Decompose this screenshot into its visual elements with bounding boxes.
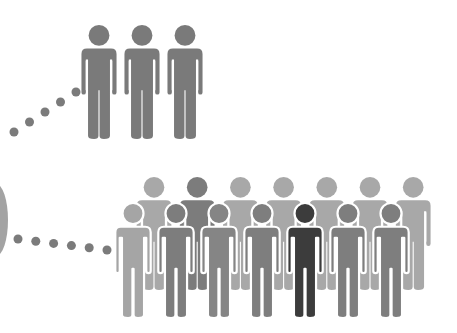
person-head <box>360 177 381 198</box>
people-illustration <box>0 0 457 333</box>
connector-dot <box>103 246 112 255</box>
person-head <box>144 177 165 198</box>
connector-dot <box>25 118 34 127</box>
person-head <box>251 203 272 224</box>
connector-dot <box>31 237 40 246</box>
person-head <box>337 203 358 224</box>
upper-dots-connector <box>10 88 81 137</box>
person-head <box>230 177 251 198</box>
person-body <box>158 227 193 318</box>
lower-dots-connector <box>14 235 112 255</box>
person-head <box>132 25 153 46</box>
person-body <box>115 227 150 318</box>
person-head <box>294 203 315 224</box>
person-head <box>175 25 196 46</box>
person-head <box>316 177 337 198</box>
connector-dot <box>67 241 76 250</box>
person-head <box>380 203 401 224</box>
person-body <box>167 49 202 139</box>
connector-dot <box>56 98 65 107</box>
top-group <box>81 25 202 139</box>
connector-dot <box>41 108 50 117</box>
person-body <box>81 49 116 139</box>
person-head <box>165 203 186 224</box>
person-head <box>89 25 110 46</box>
connector-dot <box>49 239 58 248</box>
person-icon <box>81 25 116 139</box>
person-body <box>373 227 408 318</box>
person-body <box>330 227 365 318</box>
person-head <box>273 177 294 198</box>
person-icon <box>167 25 202 139</box>
person-head <box>122 203 143 224</box>
person-body <box>124 49 159 139</box>
connector-dot <box>85 243 94 252</box>
connector-dot <box>72 88 81 97</box>
person-body <box>201 227 236 318</box>
person-head <box>187 177 208 198</box>
person-body <box>244 227 279 318</box>
connector-dot <box>14 235 23 244</box>
left-edge-shape <box>0 184 8 256</box>
person-head <box>403 177 424 198</box>
person-head <box>208 203 229 224</box>
connector-dot <box>10 128 19 137</box>
person-body <box>287 227 322 318</box>
person-icon <box>124 25 159 139</box>
